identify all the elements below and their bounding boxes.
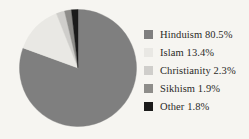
pie-chart-figure: Hinduism 80.5%Islam 13.4%Christianity 2.…: [0, 0, 249, 139]
legend-item-label: Christianity 2.3%: [160, 65, 236, 76]
legend-item: Christianity 2.3%: [144, 61, 248, 79]
legend-swatch-icon: [144, 102, 153, 111]
legend-item: Islam 13.4%: [144, 43, 248, 61]
legend-item-label: Hinduism 80.5%: [160, 29, 233, 40]
legend-item-label: Other 1.8%: [160, 101, 209, 112]
legend-item: Hinduism 80.5%: [144, 25, 248, 43]
pie-chart-graphic: [19, 9, 137, 127]
legend-item: Other 1.8%: [144, 97, 248, 115]
legend-item-label: Islam 13.4%: [160, 47, 214, 58]
legend-swatch-icon: [144, 66, 153, 75]
pie-slice-group: [20, 10, 137, 127]
legend-item: Sikhism 1.9%: [144, 79, 248, 97]
pie-svg: [19, 9, 137, 127]
chart-legend: Hinduism 80.5%Islam 13.4%Christianity 2.…: [144, 25, 248, 115]
legend-swatch-icon: [144, 84, 153, 93]
legend-item-label: Sikhism 1.9%: [160, 83, 220, 94]
legend-swatch-icon: [144, 30, 153, 39]
legend-swatch-icon: [144, 48, 153, 57]
